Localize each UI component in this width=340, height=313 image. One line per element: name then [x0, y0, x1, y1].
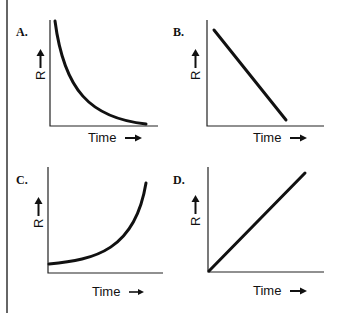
- panel-c-ylabel-text: R: [31, 219, 46, 228]
- panel-c-xlabel: Time: [92, 284, 120, 299]
- panel-b-y-arrowhead-icon: [192, 49, 200, 56]
- panel-c-label: C.: [16, 173, 28, 187]
- graph-figure: A. R Time B. R Time C. R: [0, 0, 340, 313]
- panel-d: D. R Time: [173, 167, 324, 298]
- panel-d-label: D.: [173, 173, 185, 187]
- panel-b-label: B.: [173, 25, 184, 39]
- panel-a-x-arrowhead-icon: [135, 135, 142, 142]
- panel-b-xlabel: Time: [253, 130, 281, 145]
- panel-b-ylabel: R: [188, 49, 203, 80]
- panel-b-linear-decrease-line: [214, 30, 286, 120]
- panel-b-x-arrowhead-icon: [300, 135, 307, 142]
- panel-a-label: A.: [16, 25, 28, 39]
- panel-a-decay-curve: [55, 21, 146, 124]
- panel-c: C. R Time: [16, 167, 163, 299]
- panel-d-ylabel-text: R: [188, 217, 203, 226]
- panel-a-ylabel-text: R: [33, 71, 48, 80]
- panel-b-ylabel-text: R: [188, 71, 203, 80]
- panel-b-axes: [207, 20, 324, 126]
- panel-c-ylabel: R: [31, 197, 46, 228]
- panel-d-x-arrowhead-icon: [300, 288, 307, 295]
- panel-d-linear-increase-line: [209, 173, 305, 271]
- panel-c-growth-curve: [49, 183, 146, 264]
- panel-c-x-arrowhead-icon: [138, 289, 144, 295]
- panel-c-y-arrowhead-icon: [35, 197, 43, 204]
- panel-d-xlabel: Time: [253, 283, 281, 298]
- panel-b: B. R Time: [173, 20, 324, 145]
- panel-d-ylabel: R: [188, 195, 203, 226]
- panel-a-axes: [50, 20, 158, 126]
- panel-d-y-arrowhead-icon: [192, 195, 200, 202]
- panel-a-xlabel: Time: [88, 130, 116, 145]
- panel-a: A. R Time: [16, 20, 158, 145]
- panel-a-ylabel: R: [33, 49, 48, 80]
- panel-a-y-arrowhead-icon: [37, 49, 45, 56]
